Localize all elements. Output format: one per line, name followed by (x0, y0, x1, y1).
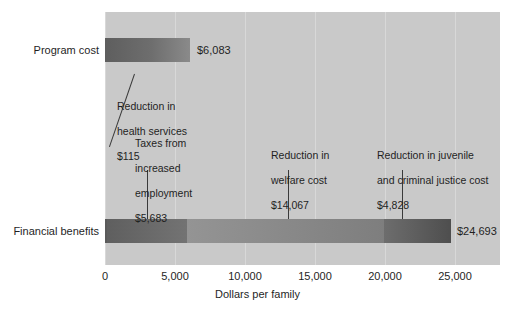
xtick-label-5000: 5,000 (150, 270, 200, 282)
annotation-taxes-line2: increased (135, 162, 192, 175)
annotation-welfare-cost: Reduction in welfare cost $14,067 (271, 136, 329, 224)
category-label-program-cost: Program cost (0, 44, 99, 56)
xtick-label-20000: 20,000 (360, 270, 410, 282)
category-label-financial-benefits: Financial benefits (0, 225, 99, 237)
annotation-welfare-line1: Reduction in (271, 149, 329, 162)
annotation-health-line1: Reduction in (117, 100, 187, 113)
annotation-justice-line3: $4,828 (377, 199, 488, 212)
xtick-label-25000: 25,000 (430, 270, 480, 282)
annotation-taxes-line3: employment (135, 187, 192, 200)
annotation-welfare-line2: welfare cost (271, 174, 329, 187)
annotation-justice-line1: Reduction in juvenile (377, 149, 488, 162)
value-label-program-cost: $6,083 (197, 44, 231, 56)
annotation-taxes-line4: $5,683 (135, 212, 192, 225)
plot-area: Reduction in health services $115 Taxes … (105, 12, 500, 265)
annotation-justice-line2: and criminal justice cost (377, 174, 488, 187)
chart-figure: Reduction in health services $115 Taxes … (0, 0, 515, 320)
annotation-justice-cost: Reduction in juvenile and criminal justi… (377, 136, 488, 224)
annotation-welfare-line3: $14,067 (271, 199, 329, 212)
xtick-label-10000: 10,000 (220, 270, 270, 282)
xtick-label-0: 0 (85, 270, 125, 282)
annotation-taxes-employment: Taxes from increased employment $5,683 (135, 124, 192, 237)
bar-program-cost (105, 38, 190, 62)
x-axis-title: Dollars per family (0, 288, 515, 300)
xtick-label-15000: 15,000 (290, 270, 340, 282)
value-label-financial-benefits: $24,693 (457, 225, 497, 237)
annotation-taxes-line1: Taxes from (135, 137, 192, 150)
bar-segment-program-cost (105, 38, 190, 62)
